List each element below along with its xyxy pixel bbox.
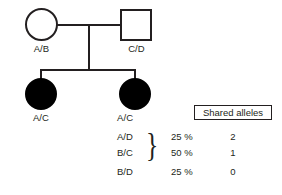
founder-male-symbol [120, 9, 152, 41]
founder-female-genotype: A/B [10, 43, 73, 54]
genotype-combo-row-2-line-1: A/D [117, 131, 133, 142]
affected-daughter-left-genotype: A/C [10, 112, 72, 123]
affected-daughter-right-symbol [119, 78, 151, 110]
percent-row-1: 25 % [171, 131, 201, 142]
shared-count-row-2: 1 [220, 147, 246, 158]
descent-line [88, 24, 90, 70]
percent-row-2: 50 % [171, 147, 201, 158]
sibship-line [40, 69, 136, 71]
grouping-brace: } [146, 128, 158, 162]
pedigree-figure: A/B C/D A/C A/C A/D B/C B/D } Shared all… [0, 0, 282, 195]
affected-daughter-right-genotype: A/C [117, 112, 157, 123]
shared-count-row-3: 0 [220, 166, 246, 177]
percent-row-3: 25 % [171, 166, 201, 177]
founder-female-symbol [25, 8, 58, 41]
shared-count-row-1: 2 [220, 131, 246, 142]
shared-alleles-header: Shared alleles [194, 105, 272, 120]
genotype-combo-row-3-line-1: B/D [117, 166, 133, 177]
founder-male-genotype: C/D [105, 43, 168, 54]
affected-daughter-left-symbol [25, 78, 57, 110]
genotype-combo-row-2-line-2: B/C [117, 147, 133, 158]
